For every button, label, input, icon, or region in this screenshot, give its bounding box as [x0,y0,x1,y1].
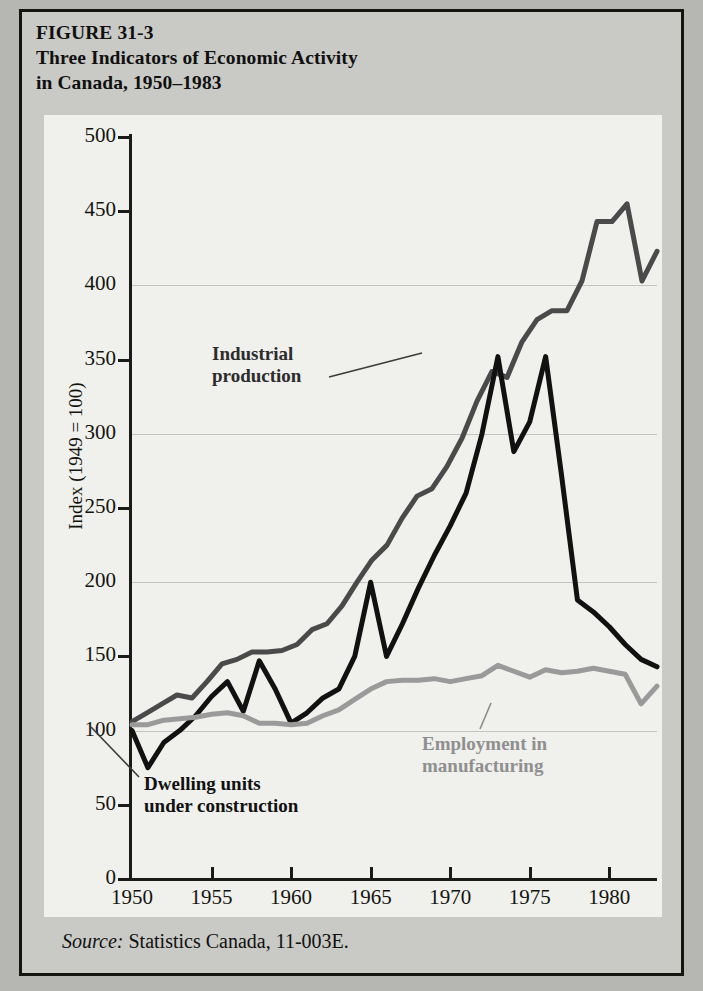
annotation-industrial-line-1: Industrial [212,343,301,365]
series-line-dwelling-units-under-construction [132,357,657,768]
annotation-industrial-production: Industrial production [212,343,301,387]
leader-line-employment [480,703,491,729]
annotation-dwelling-line-1: Dwelling units [144,773,298,795]
annotation-employment-line-2: manufacturing [422,755,547,777]
series-group [132,204,657,768]
annotation-dwelling-units: Dwelling units under construction [144,773,298,817]
annotation-industrial-line-2: production [212,365,301,387]
figure-title-line-2: in Canada, 1950–1983 [36,70,656,95]
annotation-dwelling-line-2: under construction [144,795,298,817]
figure-card: FIGURE 31-3 Three Indicators of Economic… [19,9,684,976]
figure-number: FIGURE 31-3 [36,20,656,45]
plot-area: Index (1949 = 100) 050100150200250300350… [44,115,662,917]
source-text: Statistics Canada, 11-003E. [128,930,348,952]
series-plot [44,115,662,917]
figure-header: FIGURE 31-3 Three Indicators of Economic… [36,20,656,95]
annotation-employment-manufacturing: Employment in manufacturing [422,733,547,777]
source-line: Source: Statistics Canada, 11-003E. [62,930,349,953]
figure-title-line-1: Three Indicators of Economic Activity [36,45,656,70]
annotation-employment-line-1: Employment in [422,733,547,755]
leader-line-industrial [329,353,422,377]
plot-panel: Index (1949 = 100) 050100150200250300350… [44,115,662,917]
source-label: Source: [62,930,123,952]
